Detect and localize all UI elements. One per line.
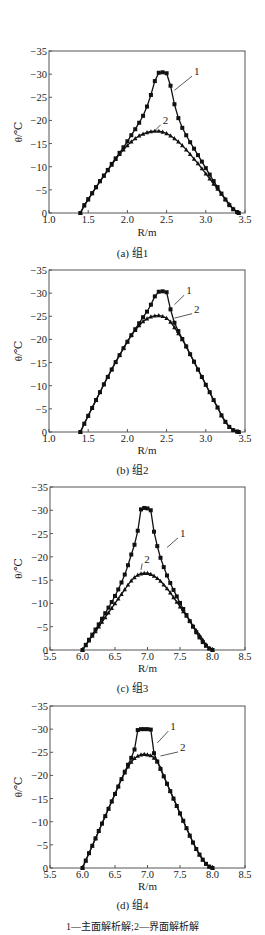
square-marker xyxy=(161,289,165,293)
square-marker xyxy=(107,606,111,610)
square-marker xyxy=(123,573,127,577)
series-label: 2 xyxy=(180,741,186,753)
y-tick-label: −35 xyxy=(31,46,47,57)
series-2: 2 xyxy=(78,303,241,434)
y-tick-label: −30 xyxy=(32,505,48,516)
square-marker xyxy=(120,580,124,584)
square-marker xyxy=(113,594,117,598)
square-marker xyxy=(110,600,114,604)
square-marker xyxy=(165,71,169,75)
square-marker xyxy=(192,147,196,151)
y-tick-label: −30 xyxy=(31,288,47,299)
square-marker xyxy=(145,310,149,314)
x-tick-label: 3.5 xyxy=(238,433,251,444)
series-2: 2 xyxy=(78,114,241,215)
square-marker xyxy=(169,307,173,311)
y-tick-label: −5 xyxy=(37,840,48,851)
square-marker xyxy=(136,529,140,533)
x-tick-label: 2.0 xyxy=(121,433,134,444)
square-marker xyxy=(162,565,166,569)
y-tick-label: −15 xyxy=(31,139,47,150)
square-marker xyxy=(125,139,129,143)
square-marker xyxy=(149,728,153,732)
square-marker xyxy=(157,71,161,75)
series-label: 2 xyxy=(194,303,200,315)
x-tick-label: 1.5 xyxy=(82,433,95,444)
square-marker xyxy=(196,153,200,157)
x-tick-label: 2.0 xyxy=(121,214,134,225)
y-tick-label: −25 xyxy=(31,311,47,322)
y-tick-label: −5 xyxy=(36,404,47,415)
square-marker xyxy=(126,563,130,567)
square-marker xyxy=(168,581,172,585)
square-marker xyxy=(176,116,180,120)
subplot-caption-c: (c) 组3 xyxy=(0,682,265,694)
leader-line xyxy=(174,295,184,305)
square-marker xyxy=(149,303,153,307)
y-tick-label: −20 xyxy=(31,115,47,126)
y-tick-label: −20 xyxy=(32,770,48,781)
square-marker xyxy=(153,79,157,83)
square-marker xyxy=(133,543,137,547)
square-marker xyxy=(129,553,133,557)
square-marker xyxy=(188,140,192,144)
square-marker xyxy=(149,508,153,512)
series-line xyxy=(83,729,213,868)
square-marker xyxy=(165,290,169,294)
x-axis-label: R/m xyxy=(138,226,157,238)
y-axis-label: θ/℃ xyxy=(12,558,24,579)
square-marker xyxy=(180,126,184,130)
square-marker xyxy=(155,544,159,548)
y-tick-label: −10 xyxy=(32,598,48,609)
y-tick-label: −10 xyxy=(32,817,48,828)
series-line xyxy=(80,131,238,213)
square-marker xyxy=(137,121,141,125)
x-tick-label: 2.5 xyxy=(160,214,173,225)
x-tick-label: 8.5 xyxy=(238,869,251,880)
series-label: 1 xyxy=(194,65,200,77)
series-label: 1 xyxy=(180,527,186,539)
square-marker xyxy=(141,315,145,319)
x-tick-label: 6.5 xyxy=(108,869,121,880)
y-tick-label: −35 xyxy=(32,482,48,493)
series-line xyxy=(80,291,238,432)
subplot-a: 0−5−10−15−20−25−30−351.01.52.02.53.03.5R… xyxy=(12,46,252,238)
square-marker xyxy=(184,133,188,137)
x-tick-label: 5.5 xyxy=(43,651,56,662)
square-marker xyxy=(152,530,156,534)
square-marker xyxy=(172,588,176,592)
x-axis-label: R/m xyxy=(138,662,157,674)
square-marker xyxy=(145,105,149,109)
x-tick-label: 3.0 xyxy=(199,214,212,225)
y-tick-label: −30 xyxy=(31,69,47,80)
leader-line xyxy=(155,125,161,131)
x-tick-label: 6.0 xyxy=(76,869,89,880)
x-tick-label: 6.0 xyxy=(76,651,89,662)
square-marker xyxy=(153,294,157,298)
x-axis-label: R/m xyxy=(138,880,157,892)
x-tick-label: 5.5 xyxy=(43,869,56,880)
square-marker xyxy=(116,587,120,591)
y-tick-label: −35 xyxy=(31,265,47,276)
square-marker xyxy=(175,594,179,598)
series-line xyxy=(83,573,213,650)
leader-line xyxy=(141,564,142,570)
subplot-d: 0−5−10−15−20−25−30−355.56.06.57.07.58.08… xyxy=(12,701,252,892)
series-label: 2 xyxy=(163,114,169,126)
x-tick-label: 8.5 xyxy=(238,651,251,662)
square-marker xyxy=(161,70,165,74)
leader-line xyxy=(161,752,179,756)
subplot-caption-a: (a) 组1 xyxy=(0,247,265,259)
subplot-b: 0−5−10−15−20−25−30−351.01.52.02.53.03.5R… xyxy=(12,265,252,456)
subplot-caption-b: (b) 组2 xyxy=(0,464,265,476)
figure-footnote: 1—主面解析解;2—界面解析解 xyxy=(0,921,265,933)
y-tick-label: −25 xyxy=(32,747,48,758)
series-label: 1 xyxy=(186,284,192,296)
y-axis-label: θ/℃ xyxy=(12,341,24,362)
square-marker xyxy=(172,102,176,106)
square-marker xyxy=(159,556,163,560)
x-tick-label: 1.0 xyxy=(42,214,55,225)
y-tick-label: −5 xyxy=(37,622,48,633)
y-axis-label: θ/℃ xyxy=(12,777,24,798)
